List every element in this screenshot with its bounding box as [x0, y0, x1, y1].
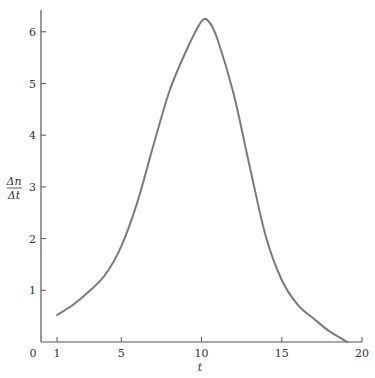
data-curve: [57, 19, 348, 342]
y-tick-label: 2: [29, 233, 36, 246]
y-tick-label: 6: [29, 26, 36, 39]
y-label-denominator: Δt: [7, 189, 21, 202]
x-tick-label: 20: [355, 347, 369, 360]
y-axis-label: Δn Δt: [5, 175, 22, 202]
chart: 15101520 123456 0 Δn Δt t: [0, 0, 375, 378]
y-tick-label: 3: [29, 181, 36, 194]
y-ticks: 123456: [29, 26, 46, 298]
x-tick-label: 1: [54, 347, 61, 360]
x-ticks: 15101520: [54, 337, 369, 360]
x-axis-label: t: [198, 361, 203, 374]
y-tick-label: 1: [29, 284, 36, 297]
origin-label: 0: [30, 347, 37, 360]
x-tick-label: 10: [195, 347, 209, 360]
y-label-numerator: Δn: [5, 175, 21, 188]
x-tick-label: 5: [118, 347, 125, 360]
x-tick-label: 15: [275, 347, 289, 360]
y-tick-label: 4: [29, 129, 36, 142]
y-tick-label: 5: [29, 78, 36, 91]
